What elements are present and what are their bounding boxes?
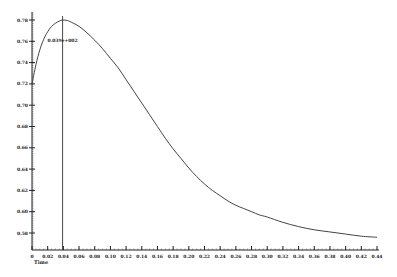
y-tick-label: 0.64 [17, 167, 28, 172]
y-tick-label: 0.70 [17, 103, 28, 108]
x-tick-label: 0.40 [340, 254, 351, 259]
x-tick-label: 0.38 [324, 254, 335, 259]
y-tick-label: 0.62 [17, 188, 28, 193]
x-tick-label: 0.10 [105, 254, 116, 259]
y-tick-label: 0.76 [17, 39, 28, 44]
line-chart: 0.580.600.620.640.660.680.700.720.740.76… [0, 0, 397, 277]
vertical-marker-label: 0.039e+002 [48, 38, 78, 43]
x-tick-label: 0.16 [152, 254, 163, 259]
x-tick-label: 0.34 [293, 254, 304, 259]
x-tick-label: 0.04 [58, 254, 69, 259]
x-tick-label: 0.22 [199, 254, 210, 259]
y-tick-label: 0.66 [17, 145, 28, 150]
axes: 0.580.600.620.640.660.680.700.720.740.76… [17, 12, 382, 265]
x-tick-label: 0.42 [356, 254, 367, 259]
x-tick-label: 0.30 [262, 254, 273, 259]
x-tick-label: 0.32 [277, 254, 288, 259]
y-tick-label: 0.68 [17, 124, 28, 129]
y-tick-label: 0.72 [17, 81, 28, 86]
x-ticks: 00.020.040.060.080.100.120.140.160.180.2… [30, 246, 382, 259]
y-tick-label: 0.78 [17, 18, 28, 23]
x-tick-label: 0.14 [136, 254, 147, 259]
x-tick-label: 0.26 [230, 254, 241, 259]
x-tick-label: 0.20 [183, 254, 194, 259]
y-tick-label: 0.60 [17, 209, 28, 214]
series-group [32, 20, 377, 237]
x-tick-label: 0.28 [246, 254, 257, 259]
x-tick-label: 0.18 [168, 254, 179, 259]
x-axis-title: Time [34, 259, 48, 265]
x-tick-label: 0.44 [372, 254, 383, 259]
x-tick-label: 0.36 [309, 254, 320, 259]
x-tick-label: 0.24 [215, 254, 226, 259]
x-tick-label: 0.12 [121, 254, 132, 259]
annotations: 0.039e+002 [48, 16, 78, 250]
y-tick-label: 0.74 [17, 60, 28, 65]
series-line-signal [32, 20, 377, 237]
x-tick-label: 0.06 [74, 254, 85, 259]
y-tick-label: 0.58 [17, 231, 28, 236]
x-tick-label: 0.08 [89, 254, 100, 259]
